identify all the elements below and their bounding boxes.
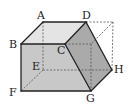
vertex-label-c: C xyxy=(57,44,65,57)
geometry-figure: A B C D E F G H xyxy=(0,0,130,105)
hidden-edge-corner-diag xyxy=(91,22,113,44)
vertex-label-b: B xyxy=(9,38,17,51)
vertex-label-a: A xyxy=(36,9,46,22)
vertex-label-g: G xyxy=(86,92,95,105)
vertex-label-e: E xyxy=(32,60,40,73)
vertex-label-f: F xyxy=(9,86,17,99)
hidden-edge-corner-h xyxy=(112,22,113,70)
vertex-label-d: D xyxy=(82,9,91,22)
vertex-label-h: H xyxy=(114,63,124,76)
